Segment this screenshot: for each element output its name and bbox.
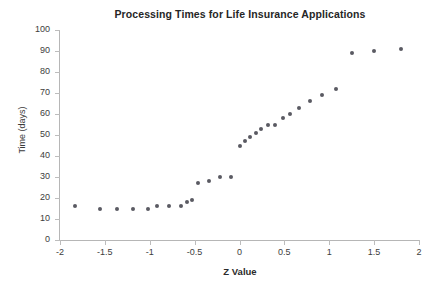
x-tick-label: 2 (399, 247, 439, 257)
chart-title: Processing Times for Life Insurance Appl… (60, 8, 420, 20)
scatter-chart: Processing Times for Life Insurance Appl… (0, 0, 439, 285)
data-point (185, 200, 189, 204)
data-point (238, 144, 242, 148)
data-point (308, 99, 312, 103)
data-point (399, 47, 403, 51)
x-axis-title: Z Value (60, 266, 420, 277)
x-tick-mark (374, 240, 375, 245)
x-tick-label: 1 (309, 247, 349, 257)
x-tick-label: 1.5 (354, 247, 394, 257)
y-tick-label: 30 (0, 171, 50, 181)
x-tick-label: -1 (130, 247, 170, 257)
data-point (218, 175, 222, 179)
data-point (229, 175, 233, 179)
x-tick-label: -2 (40, 247, 80, 257)
data-point (297, 106, 301, 110)
y-tick-label: 10 (0, 213, 50, 223)
y-tick-label: 100 (0, 24, 50, 34)
data-point (273, 123, 277, 127)
y-tick-label: 0 (0, 234, 50, 244)
x-tick-mark (329, 240, 330, 245)
data-point (98, 207, 102, 211)
x-tick-label: 0.5 (264, 247, 304, 257)
x-tick-mark (195, 240, 196, 245)
x-tick-mark (284, 240, 285, 245)
y-tick-label: 90 (0, 45, 50, 55)
y-tick-label: 70 (0, 87, 50, 97)
data-point (131, 207, 135, 211)
x-tick-label: -1.5 (85, 247, 125, 257)
data-point (281, 116, 285, 120)
data-point (254, 131, 258, 135)
y-tick-label: 60 (0, 108, 50, 118)
data-point (146, 207, 150, 211)
x-tick-mark (105, 240, 106, 245)
data-point (190, 198, 194, 202)
y-tick-label: 50 (0, 129, 50, 139)
x-tick-mark (150, 240, 151, 245)
data-point (350, 51, 354, 55)
y-tick-label: 80 (0, 66, 50, 76)
x-tick-mark (240, 240, 241, 245)
data-point (259, 127, 263, 131)
x-tick-label: 0 (220, 247, 260, 257)
data-point (266, 123, 270, 127)
x-tick-mark (419, 240, 420, 245)
y-tick-label: 40 (0, 150, 50, 160)
y-tick-label: 20 (0, 192, 50, 202)
x-tick-label: -0.5 (175, 247, 215, 257)
data-point (288, 112, 292, 116)
x-tick-mark (60, 240, 61, 245)
plot-area (60, 30, 419, 240)
